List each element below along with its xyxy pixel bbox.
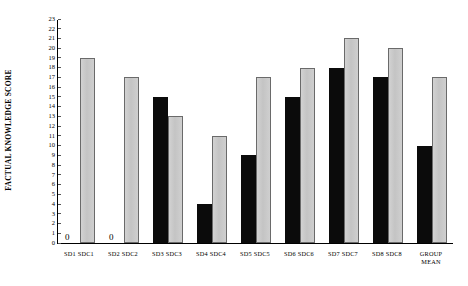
y-axis-title: FACTUAL KNOWLEDGE SCORE <box>2 18 16 242</box>
bar-sdc <box>168 116 183 243</box>
bar-sdc <box>300 68 315 243</box>
bar-group <box>190 20 234 243</box>
x-axis-labels: SD1 SDC1SD2 SDC2SD3 SDC3SD4 SDC4SD5 SDC5… <box>57 250 453 280</box>
y-axis-tick-label: 14 <box>49 103 59 110</box>
plot-area: 01234567891011121314151617181920212223 0… <box>57 20 453 244</box>
y-axis-tick-label: 10 <box>49 142 59 149</box>
y-axis-tick-label: 11 <box>49 133 58 140</box>
zero-value-label: 0 <box>109 233 114 242</box>
y-axis-tick-label: 20 <box>49 45 59 52</box>
bar-sdc <box>432 77 447 243</box>
y-axis-tick-label: 12 <box>49 123 59 130</box>
bar-group <box>146 20 190 243</box>
x-axis-label: SD8 SDC8 <box>365 250 409 258</box>
bar-sd <box>153 97 168 243</box>
y-axis-tick-label: 18 <box>49 64 59 71</box>
bar-series-container: 00 <box>58 20 453 243</box>
x-axis-label: SD7 SDC7 <box>321 250 365 258</box>
bar-group: 0 <box>102 20 146 243</box>
bar-group <box>234 20 278 243</box>
bar-sd <box>197 204 212 243</box>
bar-sd <box>417 146 432 243</box>
bar-sd <box>329 68 344 243</box>
bar-sd <box>285 97 300 243</box>
chart-root: FACTUAL KNOWLEDGE SCORE 0123456789101112… <box>0 0 468 286</box>
x-axis-label: SD1 SDC1 <box>57 250 101 258</box>
y-axis-tick-label: 15 <box>49 94 59 101</box>
bar-sd <box>373 77 388 243</box>
bar-group: 0 <box>58 20 102 243</box>
bar-sdc <box>212 136 227 243</box>
y-axis-tick-label: 19 <box>49 55 59 62</box>
bar-sdc <box>388 48 403 243</box>
bar-group <box>278 20 322 243</box>
x-axis-label: SD3 SDC3 <box>145 250 189 258</box>
x-axis-label: GROUP MEAN <box>409 250 453 266</box>
y-axis-tick-label: 22 <box>49 26 59 33</box>
bar-sdc <box>80 58 95 243</box>
x-axis-label: SD2 SDC2 <box>101 250 145 258</box>
y-axis-tick-label: 16 <box>49 84 59 91</box>
y-axis-tick-label: 21 <box>49 35 59 42</box>
bar-group <box>410 20 454 243</box>
x-axis-label: SD5 SDC5 <box>233 250 277 258</box>
bar-sdc <box>344 38 359 243</box>
y-axis-tick-label: 17 <box>49 74 59 81</box>
zero-value-label: 0 <box>65 233 70 242</box>
bar-sdc <box>256 77 271 243</box>
y-axis-tick-label: 13 <box>49 113 59 120</box>
bar-group <box>366 20 410 243</box>
x-axis-label: SD4 SDC4 <box>189 250 233 258</box>
bar-sd <box>241 155 256 243</box>
x-axis-label: SD6 SDC6 <box>277 250 321 258</box>
y-axis-tick-label: 23 <box>49 16 59 23</box>
bar-sdc <box>124 77 139 243</box>
bar-group <box>322 20 366 243</box>
